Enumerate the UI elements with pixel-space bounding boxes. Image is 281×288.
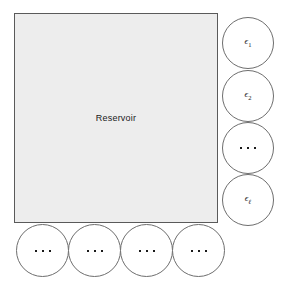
node-bottom-ellipsis-3 [120,224,173,277]
reservoir-diagram: Reservoir ϵ1 ϵ2 ϵℓ [0,0,281,288]
node-bottom-ellipsis-4 [172,224,225,277]
reservoir-box: Reservoir [14,13,218,223]
ellipsis-icon [87,250,103,252]
ellipsis-icon [240,147,256,149]
node-epsilon-1-label: ϵ1 [245,37,252,48]
ellipsis-icon [139,250,155,252]
node-epsilon-2: ϵ2 [222,70,274,122]
ellipsis-icon [35,250,51,252]
reservoir-label: Reservoir [15,113,217,123]
node-bottom-ellipsis-2 [68,224,121,277]
node-epsilon-2-label: ϵ2 [245,90,252,101]
node-epsilon-ell-label: ϵℓ [245,194,251,205]
ellipsis-icon [191,250,207,252]
node-epsilon-ell: ϵℓ [222,174,274,226]
node-bottom-ellipsis-1 [16,224,69,277]
node-epsilon-1: ϵ1 [222,17,274,69]
node-right-ellipsis [222,122,274,174]
